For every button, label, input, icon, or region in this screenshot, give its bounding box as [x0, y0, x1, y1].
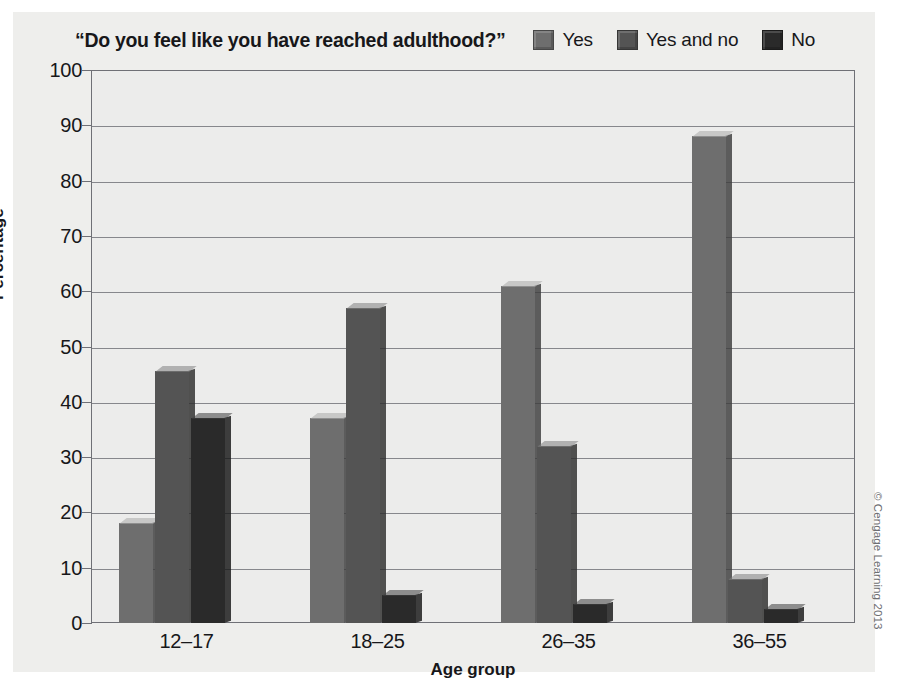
y-tick-label: 40 — [34, 390, 82, 413]
bar-side-shade — [379, 306, 386, 623]
bar[interactable] — [764, 609, 797, 623]
bar-top-shade — [573, 599, 615, 605]
y-tick-label: 60 — [34, 280, 82, 303]
y-tick-label: 30 — [34, 446, 82, 469]
bar-face — [346, 308, 380, 623]
bar-side-shade — [570, 444, 577, 623]
legend-label-yes-and-no: Yes and no — [646, 29, 738, 51]
legend-item-yes[interactable]: Yes — [533, 29, 592, 51]
legend-label-yes: Yes — [562, 29, 592, 51]
y-tick-label: 10 — [34, 556, 82, 579]
bar-face — [310, 418, 344, 623]
x-tick-label: 26–35 — [541, 630, 595, 653]
bar-side-shade — [224, 416, 231, 623]
x-axis: 12–1718–2526–3536–55 — [91, 630, 855, 660]
bar[interactable] — [692, 136, 725, 623]
bar-top-shade — [728, 574, 770, 580]
copyright-credit: © Cengage Learning 2013 — [872, 492, 884, 629]
y-tick-label: 20 — [34, 501, 82, 524]
chart-header: “Do you feel like you have reached adult… — [13, 22, 875, 58]
x-tick-label: 12–17 — [159, 630, 213, 653]
y-tick-label: 100 — [34, 59, 82, 82]
bar[interactable] — [155, 371, 188, 623]
bar-face — [501, 286, 535, 623]
legend-swatch-yes-and-no — [617, 30, 638, 50]
bar[interactable] — [346, 308, 379, 623]
bar-face — [537, 446, 571, 623]
y-tick-mark — [82, 623, 92, 624]
y-tick-label: 90 — [34, 114, 82, 137]
y-tick-label: 0 — [34, 612, 82, 635]
plot-wrapper — [91, 70, 855, 623]
y-tick-label: 50 — [34, 335, 82, 358]
bar[interactable] — [191, 418, 224, 623]
bar-face — [382, 595, 416, 623]
bar-side-shade — [725, 134, 732, 623]
x-tick-label: 18–25 — [350, 630, 404, 653]
bar-face — [119, 523, 153, 623]
bar-side-shade — [415, 593, 422, 623]
bar[interactable] — [310, 418, 343, 623]
bar[interactable] — [537, 446, 570, 623]
bar-group — [501, 70, 609, 623]
legend-item-no[interactable]: No — [762, 29, 815, 51]
bar-face — [764, 609, 798, 623]
bar[interactable] — [501, 286, 534, 623]
y-axis-label: Percentage — [0, 208, 8, 300]
y-tick-label: 80 — [34, 169, 82, 192]
bars-layer — [91, 70, 855, 623]
chart-figure: “Do you feel like you have reached adult… — [0, 0, 913, 698]
bar-top-shade — [346, 303, 388, 309]
legend-item-yes-and-no[interactable]: Yes and no — [617, 29, 738, 51]
chart-legend: Yes Yes and no No — [533, 29, 815, 51]
bar-group — [119, 70, 227, 623]
x-tick-label: 36–55 — [732, 630, 786, 653]
bar-face — [155, 371, 189, 623]
bar[interactable] — [119, 523, 152, 623]
bar[interactable] — [728, 579, 761, 623]
bar-face — [573, 604, 607, 623]
bar[interactable] — [573, 604, 606, 623]
chart-title: “Do you feel like you have reached adult… — [75, 29, 505, 52]
y-tick-label: 70 — [34, 224, 82, 247]
legend-swatch-no — [762, 30, 783, 50]
y-axis: 0102030405060708090100 — [30, 70, 82, 623]
bar-face — [692, 136, 726, 623]
bar-group — [310, 70, 418, 623]
bar-top-shade — [537, 441, 579, 447]
bar-face — [191, 418, 225, 623]
legend-swatch-yes — [533, 30, 554, 50]
bar-group — [692, 70, 800, 623]
bar-face — [728, 579, 762, 623]
bar-top-shade — [501, 281, 543, 287]
x-axis-label: Age group — [91, 660, 855, 680]
legend-label-no: No — [791, 29, 815, 51]
bar[interactable] — [382, 595, 415, 623]
